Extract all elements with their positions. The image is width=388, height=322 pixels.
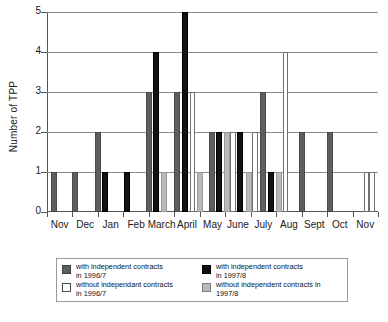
legend-swatch-black-icon — [202, 265, 211, 274]
bar-march-black — [153, 52, 159, 212]
x-axis-tick — [276, 212, 277, 217]
legend-label-line2: 1997/8 — [216, 289, 238, 298]
bar-july-white — [283, 52, 289, 212]
legend-swatch-lgray-icon — [202, 283, 211, 292]
bar-aug-dgray — [299, 132, 305, 212]
x-axis-label-march: March — [148, 219, 176, 230]
bar-nov-dgray — [51, 172, 57, 212]
x-axis-tick — [72, 212, 73, 217]
bar-nov-white — [369, 172, 375, 212]
gridline — [47, 52, 378, 53]
x-axis-label-feb: Feb — [127, 219, 144, 230]
bar-may-black — [216, 132, 222, 212]
y-axis-tick-label: 4 — [23, 45, 41, 56]
legend-label: with independent contractsin 1997/8 — [216, 263, 303, 280]
legend-label-line2: in 1996/7 — [76, 271, 106, 280]
chart-figure: Number of TPP 012345 NovDecJanFebMarchAp… — [0, 0, 388, 322]
x-axis-label-june: June — [227, 219, 249, 230]
bar-july-black — [268, 172, 274, 212]
y-axis-tick-label: 3 — [23, 85, 41, 96]
x-axis-label-aug: Aug — [280, 219, 298, 230]
legend-item: with independent contractsin 1996/7 — [62, 263, 202, 281]
bar-march-lgray — [161, 172, 167, 212]
bar-jan-black — [102, 172, 108, 212]
y-axis-tick — [41, 172, 47, 173]
legend-label: without independent contracts in1997/8 — [216, 281, 321, 298]
legend-row: with independent contractsin 1996/7 with… — [62, 263, 342, 281]
bar-june-black — [237, 132, 243, 212]
x-axis-label-may: May — [203, 219, 222, 230]
x-axis-label-nov: Nov — [356, 219, 374, 230]
legend-swatch-white-icon — [62, 283, 71, 292]
x-axis-tick — [251, 212, 252, 217]
bar-june-white — [252, 132, 258, 212]
y-axis-title-text: Number of TPP — [9, 80, 20, 151]
x-axis-label-july: July — [255, 219, 273, 230]
x-axis-tick — [98, 212, 99, 217]
bar-july-lgray — [276, 172, 282, 212]
bar-july-dgray — [260, 92, 266, 212]
legend-label-line2: in 1997/8 — [216, 271, 246, 280]
legend-item: without independant contractsin 1996/7 — [62, 281, 202, 299]
bar-may-dgray — [209, 132, 215, 212]
x-axis-label-nov: Nov — [51, 219, 69, 230]
x-axis-label-jan: Jan — [103, 219, 119, 230]
y-axis-title: Number of TPP — [2, 0, 26, 232]
bar-april-lgray — [197, 172, 203, 212]
x-axis-tick — [302, 212, 303, 217]
legend-label-line2: in 1996/7 — [76, 289, 106, 298]
bar-may-lgray — [224, 132, 230, 212]
x-axis-tick — [149, 212, 150, 217]
chart-legend: with independent contractsin 1996/7 with… — [56, 258, 348, 302]
gridline — [47, 12, 378, 13]
bar-june-lgray — [246, 172, 252, 212]
y-axis-tick-label: 5 — [23, 5, 41, 16]
x-axis-tick — [327, 212, 328, 217]
legend-item: with independent contractsin 1997/8 — [202, 263, 342, 281]
y-axis-tick-label: 2 — [23, 125, 41, 136]
y-axis-tick — [41, 132, 47, 133]
y-axis-tick-label: 1 — [23, 165, 41, 176]
bar-march-dgray — [146, 92, 152, 212]
bar-april-white — [190, 92, 196, 212]
legend-label: with independent contractsin 1996/7 — [76, 263, 163, 280]
y-axis-tick-label: 0 — [23, 205, 41, 216]
y-axis-tick — [41, 12, 47, 13]
x-axis-tick — [200, 212, 201, 217]
bar-sept-dgray — [327, 132, 333, 212]
x-axis-tick — [174, 212, 175, 217]
x-axis-tick — [353, 212, 354, 217]
bar-jan-dgray — [95, 132, 101, 212]
bar-may-white — [230, 132, 236, 212]
x-axis-label-oct: Oct — [332, 219, 348, 230]
legend-label: without independant contractsin 1996/7 — [76, 281, 173, 298]
x-axis-label-sept: Sept — [304, 219, 325, 230]
x-axis: NovDecJanFebMarchAprilMayJuneJulyAugSept… — [47, 212, 378, 242]
x-axis-label-dec: Dec — [76, 219, 94, 230]
x-axis-tick — [47, 212, 48, 217]
gridline — [47, 92, 378, 93]
x-axis-tick — [123, 212, 124, 217]
legend-row: without independant contractsin 1996/7 w… — [62, 281, 342, 299]
y-axis-tick — [41, 92, 47, 93]
x-axis-tick — [378, 212, 379, 217]
bar-feb-black — [124, 172, 130, 212]
x-axis-label-april: April — [177, 219, 197, 230]
legend-item: without independent contracts in1997/8 — [202, 281, 342, 299]
plot-area: 012345 — [47, 12, 378, 212]
legend-swatch-dgray-icon — [62, 265, 71, 274]
y-axis-tick — [41, 52, 47, 53]
bar-dec-dgray — [72, 172, 78, 212]
bar-april-dgray — [174, 92, 180, 212]
bar-april-black — [182, 12, 188, 212]
x-axis-tick — [225, 212, 226, 217]
